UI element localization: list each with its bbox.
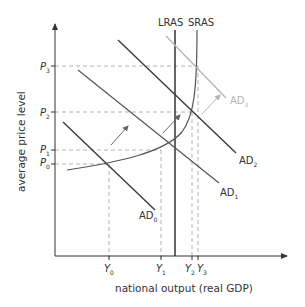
y3-label: Y3 xyxy=(197,263,207,276)
ad1-curve xyxy=(78,70,219,183)
y-axis-title: average price level xyxy=(15,91,27,192)
ad-as-diagram: LRAS SRAS AD0 AD1 AD2 AD3 P3 P2 P1 P0 Y0 xyxy=(0,0,305,307)
ad0-curve xyxy=(63,122,155,210)
ad2-label: AD2 xyxy=(239,155,258,168)
guide-lines xyxy=(55,66,198,258)
shift-arrow-3 xyxy=(202,95,220,114)
lras-label: LRAS xyxy=(158,17,183,28)
p0-label: P0 xyxy=(40,157,50,170)
y0-label: Y0 xyxy=(104,263,114,276)
y-ticks xyxy=(51,66,55,164)
y2-label: Y2 xyxy=(185,263,195,276)
shift-arrow-1 xyxy=(111,126,128,145)
ad1-label: AD1 xyxy=(220,187,239,200)
p3-label: P3 xyxy=(40,61,50,74)
ad0-label: AD0 xyxy=(139,210,158,223)
p2-label: P2 xyxy=(40,107,50,120)
x-axis-title: national output (real GDP) xyxy=(115,282,253,294)
p1-label: P1 xyxy=(40,144,50,157)
shift-arrow-2 xyxy=(163,115,180,133)
y1-label: Y1 xyxy=(156,263,166,276)
x-ticks xyxy=(109,256,198,260)
sras-label: SRAS xyxy=(188,17,214,28)
ad3-label: AD3 xyxy=(230,95,249,108)
